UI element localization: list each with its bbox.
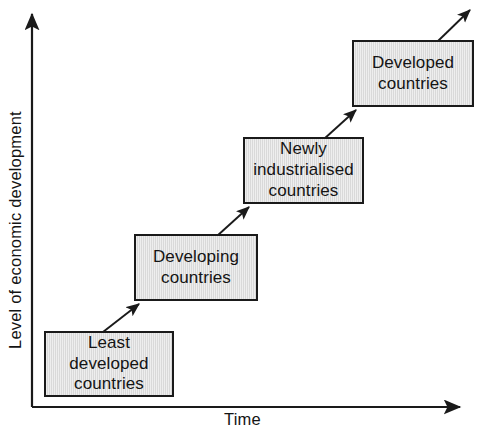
y-axis-label: Level of economic development xyxy=(6,111,25,349)
economic-development-diagram: Least developed countries Developing cou… xyxy=(0,0,482,431)
arrow-least-to-developing xyxy=(103,304,139,332)
stage-box-label: Least developed countries xyxy=(69,333,148,395)
x-axis-label: Time xyxy=(224,410,261,429)
stage-box-label: Developing countries xyxy=(153,247,239,288)
stage-box-least-developed-countries: Least developed countries xyxy=(44,331,174,397)
stage-box-developing-countries: Developing countries xyxy=(134,234,258,301)
stage-box-developed-countries: Developed countries xyxy=(352,40,474,107)
stage-box-label: Developed countries xyxy=(372,53,454,94)
stage-box-label: Newly industrialised countries xyxy=(253,139,354,201)
arrow-newly-to-developed xyxy=(324,110,356,139)
arrow-developing-to-newly xyxy=(217,207,249,236)
arrow-developed-onward xyxy=(438,10,470,41)
stage-box-newly-industrialised-countries: Newly industrialised countries xyxy=(243,137,364,204)
